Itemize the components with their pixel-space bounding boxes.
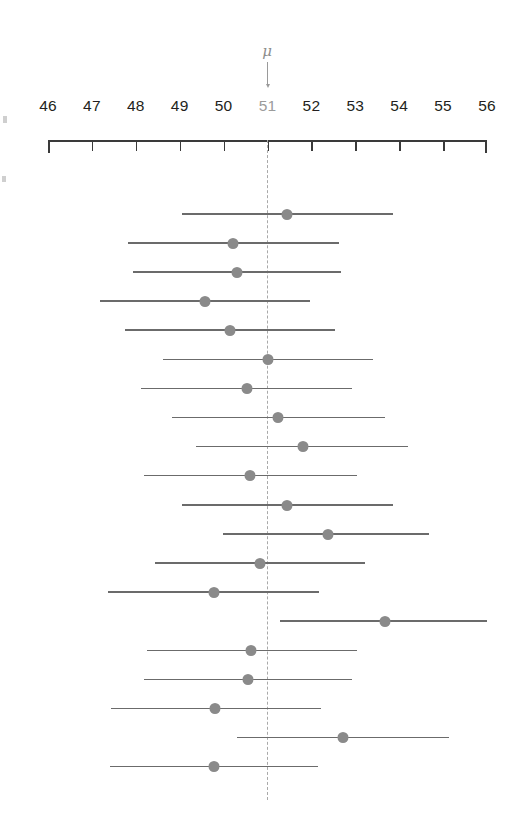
confidence-interval-row bbox=[0, 644, 523, 658]
x-tick-mark-49 bbox=[180, 140, 182, 151]
confidence-interval-row bbox=[0, 207, 523, 221]
confidence-interval-row bbox=[0, 556, 523, 570]
sample-mean-dot bbox=[232, 267, 243, 278]
sample-mean-dot bbox=[228, 238, 239, 249]
x-tick-label-55: 55 bbox=[434, 98, 452, 114]
sample-mean-dot bbox=[379, 616, 390, 627]
confidence-interval-row bbox=[0, 731, 523, 745]
confidence-interval-row bbox=[0, 236, 523, 250]
confidence-interval-row bbox=[0, 382, 523, 396]
confidence-interval-row bbox=[0, 323, 523, 337]
x-tick-label-52: 52 bbox=[303, 98, 321, 114]
confidence-interval-row bbox=[0, 469, 523, 483]
mu-symbol-label: μ bbox=[262, 44, 272, 59]
sample-mean-dot bbox=[282, 500, 293, 511]
confidence-interval-row bbox=[0, 702, 523, 716]
confidence-interval-row bbox=[0, 498, 523, 512]
x-tick-mark-46 bbox=[48, 140, 50, 153]
x-tick-mark-53 bbox=[355, 140, 357, 151]
x-tick-mark-54 bbox=[399, 140, 401, 151]
sample-mean-dot bbox=[209, 703, 220, 714]
sample-mean-dot bbox=[272, 412, 283, 423]
sample-mean-dot bbox=[242, 674, 253, 685]
mu-arrow-head-icon bbox=[266, 84, 270, 88]
x-tick-mark-56 bbox=[485, 140, 487, 153]
x-tick-label-49: 49 bbox=[171, 98, 189, 114]
confidence-interval-row bbox=[0, 527, 523, 541]
x-tick-label-51: 51 bbox=[259, 98, 277, 114]
x-tick-mark-50 bbox=[224, 140, 226, 151]
page-edge-artifact-bottom bbox=[2, 176, 6, 182]
sample-mean-dot bbox=[208, 761, 219, 772]
confidence-interval-row bbox=[0, 585, 523, 599]
confidence-interval-row bbox=[0, 760, 523, 774]
x-tick-label-47: 47 bbox=[83, 98, 101, 114]
confidence-interval-row bbox=[0, 294, 523, 308]
x-tick-mark-55 bbox=[443, 140, 445, 151]
sample-mean-dot bbox=[338, 732, 349, 743]
x-tick-label-46: 46 bbox=[39, 98, 57, 114]
x-tick-mark-47 bbox=[92, 140, 94, 151]
sample-mean-dot bbox=[225, 325, 236, 336]
x-tick-mark-48 bbox=[136, 140, 138, 151]
x-tick-label-48: 48 bbox=[127, 98, 145, 114]
confidence-interval-plot: μ 4647484950515253545556 bbox=[0, 0, 523, 836]
x-tick-label-56: 56 bbox=[478, 98, 496, 114]
x-tick-mark-52 bbox=[311, 140, 313, 151]
confidence-interval-row bbox=[0, 265, 523, 279]
sample-mean-dot bbox=[263, 354, 274, 365]
x-tick-label-50: 50 bbox=[215, 98, 233, 114]
sample-mean-dot bbox=[322, 529, 333, 540]
page-edge-artifact-top bbox=[3, 116, 7, 123]
sample-mean-dot bbox=[208, 587, 219, 598]
sample-mean-dot bbox=[241, 383, 252, 394]
mu-arrow-shaft bbox=[267, 62, 268, 85]
x-tick-label-54: 54 bbox=[390, 98, 408, 114]
sample-mean-dot bbox=[244, 470, 255, 481]
sample-mean-dot bbox=[282, 209, 293, 220]
confidence-interval-row bbox=[0, 673, 523, 687]
sample-mean-dot bbox=[297, 441, 308, 452]
sample-mean-dot bbox=[245, 645, 256, 656]
sample-mean-dot bbox=[254, 558, 265, 569]
confidence-interval-row bbox=[0, 614, 523, 628]
confidence-interval-row bbox=[0, 440, 523, 454]
x-tick-label-53: 53 bbox=[346, 98, 364, 114]
sample-mean-dot bbox=[200, 296, 211, 307]
confidence-interval-row bbox=[0, 411, 523, 425]
confidence-interval-row bbox=[0, 353, 523, 367]
